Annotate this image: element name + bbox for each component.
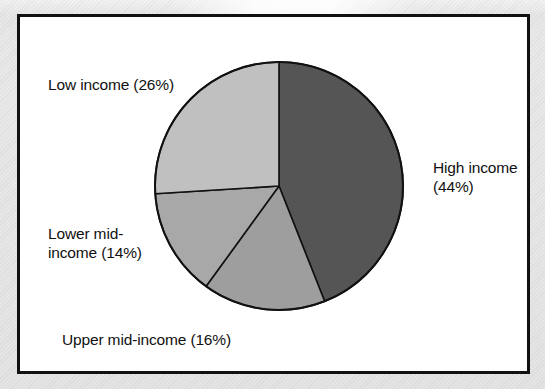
- chart-frame: Low income (26%) High income (44%) Lower…: [17, 14, 530, 374]
- slice-label-low-income: Low income (26%): [48, 75, 174, 94]
- pie-slice-group: [155, 62, 403, 310]
- slice-label-high-income: High income (44%): [433, 158, 518, 196]
- slice-label-lower-mid-income: Lower mid- income (14%): [48, 224, 142, 262]
- scanned-page: Low income (26%) High income (44%) Lower…: [0, 0, 545, 389]
- slice-label-upper-mid-income: Upper mid-income (16%): [62, 330, 231, 349]
- pie-chart: Low income (26%) High income (44%) Lower…: [20, 17, 527, 371]
